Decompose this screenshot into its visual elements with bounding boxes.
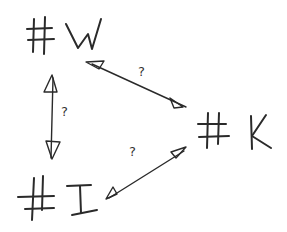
edge-label-k-i: ? (129, 144, 136, 159)
diagram-svg: ? ? ? (0, 0, 287, 232)
arrowhead-down (46, 141, 60, 159)
hash-glyph-k (198, 113, 229, 148)
arrowhead-i (106, 187, 117, 199)
letter-i (67, 185, 97, 215)
arrowhead-up (44, 75, 57, 92)
letter-k (251, 115, 271, 149)
node-w (27, 17, 101, 54)
node-k (198, 113, 271, 149)
edge-label-w-k: ? (138, 64, 145, 79)
edge-w-i: ? (44, 75, 68, 159)
diagram-canvas: ? ? ? (0, 0, 287, 232)
edge-k-i: ? (106, 144, 186, 199)
arrowhead-k2 (171, 147, 186, 158)
edge-w-k: ? (86, 61, 186, 108)
letter-w (66, 19, 101, 49)
hash-glyph-w (27, 17, 54, 54)
arrowhead-k (170, 98, 183, 108)
edge-label-w-i: ? (61, 104, 68, 119)
hash-glyph-i (18, 176, 54, 220)
node-i (18, 176, 97, 220)
